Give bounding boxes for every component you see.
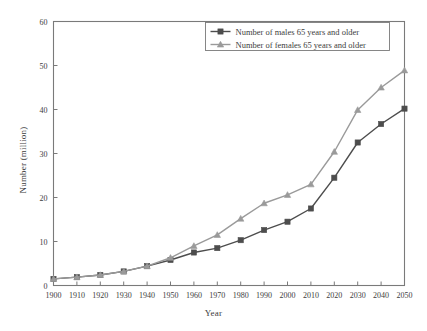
y-tick-label: 50 <box>40 62 48 71</box>
x-tick-label: 1920 <box>92 291 108 300</box>
x-tick-label: 2010 <box>303 291 319 300</box>
y-tick-label: 30 <box>40 150 48 159</box>
plot-border <box>54 22 405 286</box>
chart-figure: 0102030405060 19001910192019301940195019… <box>0 0 427 331</box>
data-point-square <box>191 250 196 255</box>
data-point-square <box>285 219 290 224</box>
series-females <box>50 67 407 281</box>
data-point-triangle <box>331 149 337 155</box>
legend-label: Number of females 65 years and older <box>236 40 366 50</box>
legend-label: Number of males 65 years and older <box>236 27 360 37</box>
series-males <box>51 106 407 281</box>
x-tick-label: 1980 <box>233 291 249 300</box>
data-point-square <box>262 227 267 232</box>
x-tick-label: 1950 <box>163 291 179 300</box>
y-tick-label: 40 <box>40 106 48 115</box>
data-point-triangle <box>238 215 244 221</box>
y-axis-ticks: 0102030405060 <box>40 18 58 291</box>
data-point-square <box>238 238 243 243</box>
x-tick-label: 2000 <box>280 291 296 300</box>
x-tick-label: 1990 <box>256 291 272 300</box>
y-tick-label: 0 <box>44 282 48 291</box>
series-line <box>54 109 405 279</box>
data-point-square <box>379 121 384 126</box>
x-tick-label: 1940 <box>139 291 155 300</box>
plot-frame <box>54 22 405 286</box>
x-axis-title: Year <box>0 308 427 318</box>
data-point-triangle <box>401 67 407 73</box>
data-point-square <box>215 246 220 251</box>
x-tick-label: 1960 <box>186 291 202 300</box>
chart-legend: Number of males 65 years and olderNumber… <box>206 23 390 51</box>
y-tick-label: 60 <box>40 18 48 27</box>
y-axis-title: Number (million) <box>18 105 28 215</box>
data-point-square <box>332 175 337 180</box>
x-axis-ticks: 1900191019201930194019501960197019801990… <box>46 282 413 300</box>
line-chart: 0102030405060 19001910192019301940195019… <box>0 0 427 331</box>
x-tick-label: 1970 <box>209 291 225 300</box>
data-point-square <box>218 29 223 34</box>
data-series-layer <box>50 67 407 281</box>
y-tick-label: 10 <box>40 238 48 247</box>
data-point-square <box>355 140 360 145</box>
data-point-square <box>308 206 313 211</box>
y-tick-label: 20 <box>40 194 48 203</box>
series-line <box>54 70 405 279</box>
x-tick-label: 2030 <box>350 291 366 300</box>
x-tick-label: 2020 <box>326 291 342 300</box>
x-tick-label: 1910 <box>69 291 85 300</box>
x-tick-label: 2040 <box>373 291 389 300</box>
x-tick-label: 1930 <box>116 291 132 300</box>
x-tick-label: 2050 <box>397 291 413 300</box>
x-tick-label: 1900 <box>46 291 62 300</box>
data-point-square <box>402 106 407 111</box>
